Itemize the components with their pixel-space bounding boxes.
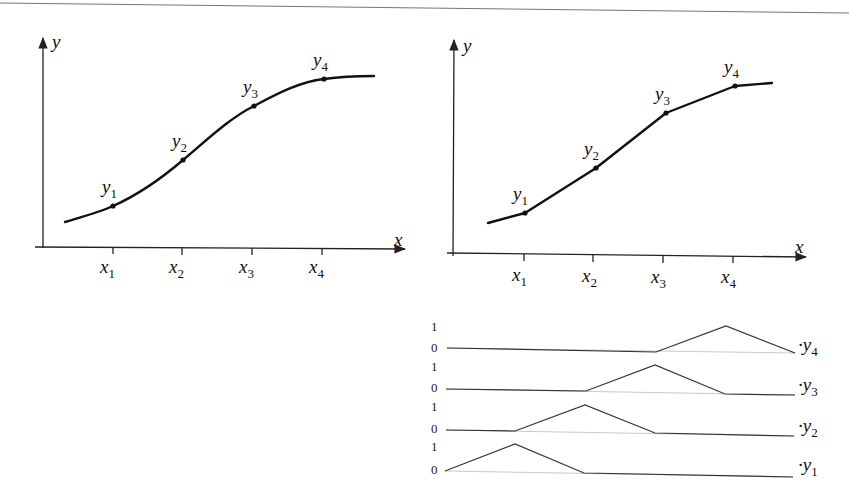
- x-axis-label: x: [393, 229, 403, 250]
- data-point: [593, 165, 598, 170]
- y-axis: [453, 40, 454, 256]
- x-tick-label: x4: [308, 256, 324, 281]
- level-one-label: 1: [431, 319, 438, 334]
- x-tick-label: x2: [168, 256, 184, 281]
- basis-label: ·y1: [798, 454, 818, 479]
- data-point: [732, 83, 737, 88]
- y-axis-label: y: [50, 31, 61, 52]
- basis-row-y1: 1 0 ·y1: [431, 439, 818, 479]
- level-one-label: 1: [431, 399, 438, 414]
- basis-row-y2: 1 0 ·y2: [431, 399, 818, 440]
- hat-function: [447, 326, 795, 353]
- header-rule: [0, 3, 849, 13]
- level-zero-label: 0: [431, 380, 438, 395]
- point-label: y4: [311, 49, 328, 74]
- basis-row-y3: 1 0 ·y3: [431, 359, 818, 399]
- data-point: [110, 203, 115, 208]
- x-tick-label: x3: [238, 256, 254, 281]
- hat-function: [446, 365, 795, 395]
- piecewise-linear-plot: y x x1 x2 x3 x4 y1 y2 y3 y4: [447, 35, 806, 291]
- y-axis-label: y: [461, 35, 472, 56]
- point-label: y2: [170, 130, 187, 155]
- basis-row-y4: 1 0 ·y4: [431, 319, 818, 359]
- hat-function: [446, 405, 794, 436]
- x-tick-label: x1: [511, 264, 527, 289]
- point-label: y1: [100, 176, 117, 201]
- level-zero-label: 0: [431, 462, 438, 477]
- x-tick-label: x2: [581, 265, 597, 290]
- smooth-curve-plot: y x x1 x2 x3 x4 y1 y2 y3 y4: [35, 31, 405, 281]
- point-label: y2: [582, 138, 599, 163]
- x-tick-label: x4: [720, 266, 736, 291]
- data-point: [663, 110, 668, 115]
- level-one-label: 1: [431, 359, 438, 374]
- x-tick-label: x3: [650, 266, 666, 291]
- data-point: [522, 210, 527, 215]
- data-point: [321, 76, 326, 81]
- piecewise-linear-curve: [488, 83, 772, 223]
- level-one-label: 1: [431, 439, 438, 454]
- figure: y x x1 x2 x3 x4 y1 y2 y3 y4 y x x1 x2: [0, 0, 849, 501]
- x-tick-label: x1: [99, 256, 115, 281]
- point-label: y1: [511, 183, 528, 208]
- basis-label: ·y3: [798, 374, 818, 399]
- point-label: y4: [722, 56, 739, 81]
- hat-basis-functions: 1 0 ·y4 1 0 ·y3 1 0 ·y2 1 0 ·y1: [431, 319, 818, 479]
- x-axis: [447, 253, 806, 257]
- level-zero-label: 0: [431, 340, 438, 355]
- point-label: y3: [241, 76, 258, 101]
- point-label: y3: [653, 83, 670, 108]
- basis-label: ·y2: [798, 415, 818, 440]
- data-point: [180, 157, 185, 162]
- level-zero-label: 0: [431, 421, 438, 436]
- x-axis: [35, 247, 405, 249]
- x-axis-label: x: [794, 236, 804, 257]
- basis-label: ·y4: [798, 334, 818, 359]
- data-point: [251, 103, 256, 108]
